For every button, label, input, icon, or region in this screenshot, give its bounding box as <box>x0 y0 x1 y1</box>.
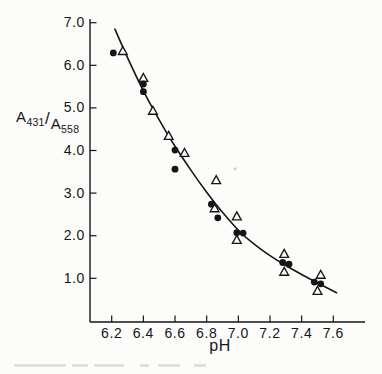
scan-speck <box>234 168 237 171</box>
y-tick-label: 2.0 <box>64 227 85 243</box>
data-point-open-triangle <box>118 47 127 55</box>
data-point-filled-circle <box>214 214 221 221</box>
ph-ratio-chart: 6.26.46.66.87.07.27.47.67.06.05.04.03.02… <box>0 0 382 374</box>
data-point-filled-circle <box>172 166 179 173</box>
data-point-filled-circle <box>110 50 117 57</box>
y-tick-label: 1.0 <box>64 270 85 286</box>
data-point-open-triangle <box>232 235 241 243</box>
x-tick-label: 7.2 <box>259 325 280 341</box>
x-tick-label: 7.6 <box>323 325 344 341</box>
data-point-filled-circle <box>140 81 147 88</box>
data-point-filled-circle <box>240 230 247 237</box>
data-point-open-triangle <box>280 267 289 275</box>
data-point-filled-circle <box>208 201 215 208</box>
fit-curve <box>115 29 337 293</box>
data-point-open-triangle <box>149 106 158 114</box>
y-label-numerator: A431 <box>16 108 45 125</box>
data-point-filled-circle <box>286 261 293 268</box>
y-tick-label: 3.0 <box>64 185 85 201</box>
x-tick-label: 6.2 <box>101 325 122 341</box>
data-point-open-triangle <box>164 131 173 139</box>
y-label-denominator: A558 <box>51 115 80 135</box>
y-tick-label: 4.0 <box>64 142 85 158</box>
data-point-open-triangle <box>232 212 241 220</box>
x-tick-label: 6.4 <box>133 325 154 341</box>
x-tick-label: 7.0 <box>228 325 249 341</box>
data-point-filled-circle <box>279 259 286 266</box>
data-point-open-triangle <box>316 270 325 278</box>
figure-panel: 6.26.46.66.87.07.27.47.67.06.05.04.03.02… <box>0 0 382 374</box>
data-point-open-triangle <box>280 249 289 257</box>
data-point-filled-circle <box>311 279 318 286</box>
data-point-open-triangle <box>139 74 148 82</box>
data-point-open-triangle <box>212 176 221 184</box>
x-tick-label: 7.4 <box>291 325 312 341</box>
y-axis-label: A431/A558 <box>16 107 79 128</box>
data-point-filled-circle <box>140 88 147 95</box>
data-point-open-triangle <box>180 149 189 157</box>
data-point-filled-circle <box>172 147 179 154</box>
data-point-filled-circle <box>317 280 324 287</box>
x-tick-label: 6.6 <box>164 325 185 341</box>
y-tick-label: 7.0 <box>64 14 85 30</box>
data-point-open-triangle <box>313 287 322 295</box>
y-tick-label: 6.0 <box>64 57 85 73</box>
x-axis-label: pH <box>209 337 231 354</box>
data-point-filled-circle <box>233 229 240 236</box>
